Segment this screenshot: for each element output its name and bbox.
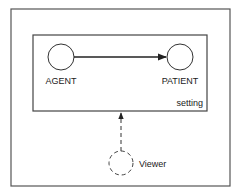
setting-label: setting	[176, 98, 203, 108]
patient-node	[167, 44, 193, 70]
agent-node	[48, 44, 74, 70]
viewer-node	[109, 151, 133, 175]
stage-model-diagram: setting AGENT PATIENT Viewer	[0, 0, 241, 196]
viewer-label: Viewer	[139, 159, 166, 169]
patient-label: PATIENT	[162, 76, 199, 86]
agent-label: AGENT	[45, 76, 77, 86]
